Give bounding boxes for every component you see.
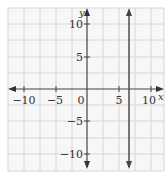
origin-label: 0 xyxy=(78,94,85,107)
coordinate-plane: −10 −5 0 5 10 x 10 5 −5 −10 y xyxy=(0,0,168,176)
x-axis-label: x xyxy=(158,91,164,102)
x-tick-label-5: 5 xyxy=(116,94,123,107)
x-tick-label-neg10: −10 xyxy=(12,94,35,107)
y-tick-label-5: 5 xyxy=(76,51,83,64)
y-tick-label-neg10: −10 xyxy=(60,148,83,161)
y-tick-label-neg5: −5 xyxy=(67,115,83,128)
x-tick-label-neg5: −5 xyxy=(47,94,63,107)
y-axis-label: y xyxy=(78,7,85,18)
y-tick-label-10: 10 xyxy=(69,18,83,31)
x-tick-label-10: 10 xyxy=(142,94,156,107)
